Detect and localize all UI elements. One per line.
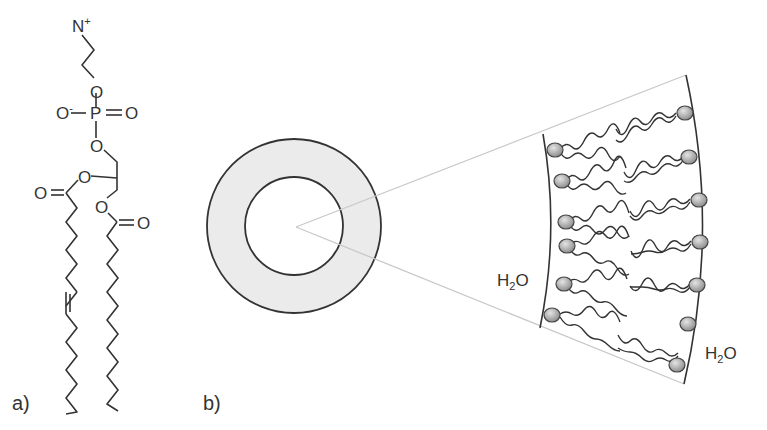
headgroup-outer — [691, 193, 707, 207]
headgroup-inner — [554, 174, 570, 188]
inner-leaflet-boundary — [540, 134, 551, 328]
headgroup-outer — [669, 358, 685, 372]
vesicle-lumen — [245, 177, 343, 275]
inner-leaflet-tails — [560, 124, 629, 351]
water-label-inner: H2O — [497, 271, 529, 292]
atom-o-carbonyl-right: O — [137, 214, 150, 233]
atom-o-carbonyl-left: O — [34, 184, 47, 203]
atom-o-double: O — [125, 104, 138, 123]
figure-canvas: N+ O O- P O O O O O O a) — [0, 0, 767, 430]
atom-o-glycerol-low: O — [95, 198, 108, 217]
headgroup-outer — [680, 317, 696, 331]
headgroup-inner — [544, 308, 560, 322]
outer-leaflet-boundary — [684, 75, 703, 384]
headgroup-inner — [547, 143, 563, 157]
panel-a-label: a) — [12, 392, 30, 414]
headgroup-outer — [677, 106, 693, 120]
bilayer-segment — [540, 75, 703, 384]
headgroup-outer — [689, 278, 705, 292]
lipid-molecules — [560, 113, 691, 362]
water-label-outer: H2O — [705, 344, 737, 365]
saturated-chain — [107, 222, 118, 411]
headgroup-inner — [558, 215, 574, 229]
unsaturated-chain — [66, 193, 77, 292]
atom-o-minus: O- — [56, 102, 73, 123]
atom-n: N+ — [72, 15, 91, 36]
headgroup-inner — [559, 239, 575, 253]
headgroup-outer — [681, 150, 697, 164]
atom-o-phosphate-ester: O — [90, 137, 103, 156]
headgroup-outer — [692, 235, 708, 249]
atom-o-ether: O — [90, 83, 103, 102]
lipid-headgroups — [544, 106, 708, 372]
panel-b-label: b) — [203, 392, 221, 414]
atom-o-glycerol-mid: O — [78, 168, 91, 187]
vesicle — [207, 139, 381, 313]
headgroup-inner — [556, 277, 572, 291]
atom-p: P — [90, 104, 101, 123]
